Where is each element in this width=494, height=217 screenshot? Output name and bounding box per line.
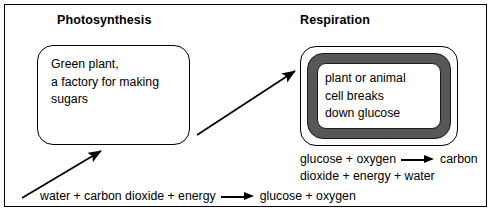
photosynthesis-products: glucose + oxygen <box>260 188 356 205</box>
respiration-text-line-2: cell breaks <box>325 88 445 106</box>
diagram-canvas: Photosynthesis Respiration Green plant, … <box>0 0 494 217</box>
photosynthesis-reactants: water + carbon dioxide + energy <box>40 188 216 205</box>
photosynthesis-text-line-3: sugars <box>51 91 191 109</box>
respiration-text-line-1: plant or animal <box>325 70 445 88</box>
photosynthesis-text-line-2: a factory for making <box>51 74 191 92</box>
arrow-right-icon <box>221 190 255 202</box>
respiration-box-text: plant or animal cell breaks down glucose <box>325 70 445 123</box>
photosynthesis-equation-line-1: water + carbon dioxide + energy glucose … <box>40 188 356 205</box>
respiration-equation: glucose + oxygen carbon dioxide + energy… <box>300 151 478 184</box>
respiration-reactants: glucose + oxygen <box>300 151 396 168</box>
respiration-heading: Respiration <box>300 13 370 27</box>
photosynthesis-heading: Photosynthesis <box>57 13 151 27</box>
respiration-equation-line-1: glucose + oxygen carbon <box>300 151 478 168</box>
photosynthesis-text-line-1: Green plant, <box>51 56 191 74</box>
respiration-text-line-3: down glucose <box>325 105 445 123</box>
arrow-right-icon <box>401 153 435 165</box>
respiration-equation-line-2: dioxide + energy + water <box>300 168 478 185</box>
photosynthesis-box-text: Green plant, a factory for making sugars <box>51 56 191 109</box>
photosynthesis-equation: water + carbon dioxide + energy glucose … <box>40 188 356 205</box>
respiration-products-part-1: carbon <box>440 151 478 168</box>
